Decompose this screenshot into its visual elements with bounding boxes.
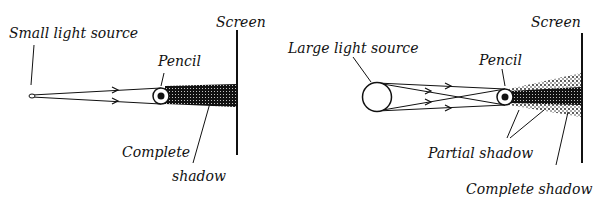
left-source-leader: [31, 45, 34, 85]
small-light-source-icon: [29, 94, 35, 98]
right-pencil-label: Pencil: [478, 52, 522, 68]
right-diagram: Large light source Pencil Screen Partial…: [287, 14, 592, 197]
right-pencil-core: [502, 94, 509, 101]
right-pencil-leader: [502, 69, 505, 86]
right-source-leader: [353, 57, 371, 82]
left-shadow-label-2: shadow: [172, 168, 226, 184]
left-pencil-label: Pencil: [157, 53, 201, 69]
left-ray-top: [32, 88, 161, 95]
right-partial-label: Partial shadow: [427, 145, 533, 161]
left-screen-label: Screen: [216, 14, 266, 30]
right-partial-leader-2: [510, 110, 544, 138]
left-shadow-leader: [193, 103, 210, 163]
left-pencil-core: [158, 93, 165, 100]
left-shadow-label-1: Complete: [122, 144, 190, 160]
left-complete-shadow: [165, 84, 236, 107]
left-source-label: Small light source: [9, 25, 138, 41]
left-diagram: Small light source Pencil Screen Complet…: [9, 14, 266, 184]
left-ray-bottom: [32, 97, 161, 104]
large-light-source-icon: [363, 83, 392, 112]
left-pencil-leader: [161, 73, 164, 86]
right-complete-label: Complete shadow: [466, 181, 592, 197]
right-partial-leader-1: [507, 110, 519, 138]
shadow-diagram: Small light source Pencil Screen Complet…: [0, 0, 599, 214]
right-source-label: Large light source: [287, 40, 419, 56]
right-complete-leader: [556, 112, 568, 165]
right-screen-label: Screen: [531, 14, 581, 30]
